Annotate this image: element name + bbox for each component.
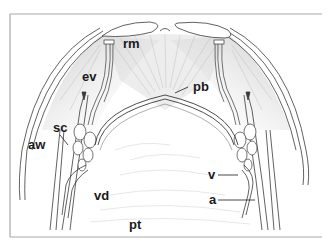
vas-deferens: [62, 165, 253, 218]
label-aw: aw: [28, 138, 45, 151]
label-vd: vd: [94, 189, 109, 202]
anatomical-diagram: [0, 0, 331, 247]
bladder-shading: [90, 143, 250, 224]
label-v: v: [208, 168, 215, 181]
label-pt: pt: [129, 218, 141, 231]
label-sc: sc: [53, 121, 67, 134]
label-a: a: [209, 193, 216, 206]
label-ev: ev: [82, 70, 96, 83]
label-pb: pb: [193, 80, 209, 93]
label-rm: rm: [123, 37, 140, 50]
